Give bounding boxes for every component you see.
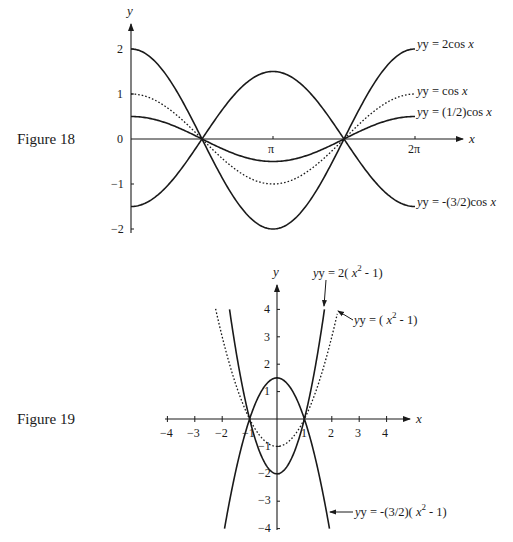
y-tick-label: 4 xyxy=(264,302,270,316)
x-axis-label: x xyxy=(468,131,475,146)
curve-label-2cos: yy = 2cos x xyxy=(415,37,474,51)
curve-label-cos: yy = cos x xyxy=(415,84,468,98)
curve-label-2-x2-minus-1: yy = 2( x2 - 1) xyxy=(311,263,383,280)
leader-arrow xyxy=(338,311,353,320)
curve-label-x2-minus-1: yy = ( x2 - 1) xyxy=(352,310,417,327)
y-tick-label: 1 xyxy=(117,87,123,101)
y-tick-label: −4 xyxy=(258,521,271,535)
figure-18: Figure 18 y x 2 1 0 −1 −2 π 2π yy = 2cos… xyxy=(17,3,496,236)
figure-18-label: Figure 18 xyxy=(17,131,75,147)
leader-arrow xyxy=(324,280,326,306)
y-tick-label: −2 xyxy=(111,222,124,236)
y-tick-label: 0 xyxy=(117,132,123,146)
x-tick-label: −2 xyxy=(215,426,228,440)
x-tick-label: 2π xyxy=(408,142,420,156)
y-tick-label: 2 xyxy=(117,42,123,56)
y-tick-label: 2 xyxy=(264,357,270,371)
x-tick-label: 3 xyxy=(355,426,361,440)
x-tick-label: 4 xyxy=(382,426,388,440)
x-tick-label: −4 xyxy=(160,426,173,440)
y-axis-label: y xyxy=(271,264,279,279)
x-tick-label: 2 xyxy=(328,426,334,440)
curve-label-half-cos: yy = (1/2)cos x xyxy=(415,105,492,119)
x-axis-label: x xyxy=(415,411,422,426)
figure-19-label: Figure 19 xyxy=(17,411,75,427)
x-tick-label: π xyxy=(268,142,274,156)
x-tick-label: −3 xyxy=(187,426,200,440)
x-tick-labels: −4 −3 −2 −1 1 2 3 4 xyxy=(160,426,388,440)
figures-canvas: Figure 18 y x 2 1 0 −1 −2 π 2π yy = 2cos… xyxy=(0,0,513,542)
y-tick-label: −1 xyxy=(111,177,124,191)
y-tick-label: −3 xyxy=(258,493,271,507)
y-axis-label: y xyxy=(125,3,133,18)
curve-label-neg-three-halves-x2-minus-1: yy = -(3/2)( x2 - 1) xyxy=(353,502,447,519)
y-tick-label: 3 xyxy=(264,330,270,344)
figure-19: Figure 19 y x −4 −3 −2 −1 1 2 3 4 4 3 2 … xyxy=(17,263,447,535)
curve-label-neg-three-halves-cos: yy = -(3/2)cos x xyxy=(415,195,496,209)
